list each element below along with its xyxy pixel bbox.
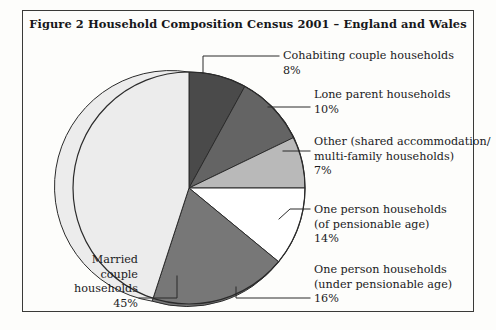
callout-pensionable-text-line2: (of pensionable age) [314,218,429,231]
callout-married-value: 45% [113,297,138,310]
callout-lone-parent-text: Lone parent households [314,88,451,101]
callout-cohabiting-text: Cohabiting couple households [283,49,454,62]
callout-other-text-line1: Other (shared accommodation/ [314,135,491,148]
callout-cohabiting-value: 8% [283,64,454,79]
leader-line-cohabiting [203,56,279,73]
callout-pensionable-text-line1: One person households [314,203,447,216]
callout-pensionable-value: 14% [314,232,447,247]
callout-lone-parent-value: 10% [314,103,451,118]
callout-under-value: 16% [314,292,452,307]
callout-married-couple: Married couple households 45% [26,253,138,311]
callout-one-person-pensionable: One person households (of pensionable ag… [314,203,447,247]
callout-other-value: 7% [314,164,491,179]
callout-one-person-under-pensionable: One person households (under pensionable… [314,263,452,307]
callout-married-text-line2: couple [100,268,138,281]
callout-lone-parent: Lone parent households 10% [314,88,451,117]
callout-married-text-line3: households [74,282,138,295]
callout-under-text-line1: One person households [314,263,447,276]
callout-cohabiting-couple: Cohabiting couple households 8% [283,49,454,78]
callout-other: Other (shared accommodation/ multi-famil… [314,135,491,179]
callout-other-text-line2: multi-family households) [314,150,454,163]
callout-under-text-line2: (under pensionable age) [314,278,452,291]
callout-married-text-line1: Married [92,253,138,266]
figure-container: Figure 2 Household Composition Census 20… [0,0,496,330]
